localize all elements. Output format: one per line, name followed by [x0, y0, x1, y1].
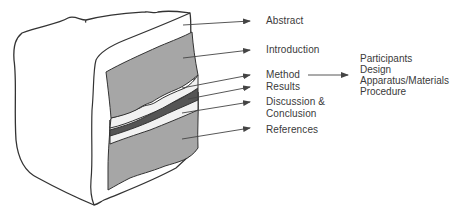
subsection-apparatus: Apparatus/Materials [360, 75, 449, 86]
label-discussion: Discussion & [266, 96, 325, 107]
label-method: Method [266, 69, 300, 80]
label-conclusion: Conclusion [266, 108, 316, 119]
arrow-abstract [183, 21, 250, 25]
subsection-design: Design [360, 64, 449, 75]
paper-cake-diagram: Abstract Introduction Method Results Dis… [0, 0, 463, 218]
label-introduction: Introduction [266, 44, 319, 55]
subsection-procedure: Procedure [360, 86, 449, 97]
method-subsections-list: Participants Design Apparatus/Materials … [360, 53, 449, 97]
subsection-participants: Participants [360, 53, 449, 64]
cake-illustration [0, 0, 463, 218]
label-abstract: Abstract [266, 15, 303, 26]
label-results: Results [266, 81, 300, 92]
label-references: References [266, 124, 318, 135]
